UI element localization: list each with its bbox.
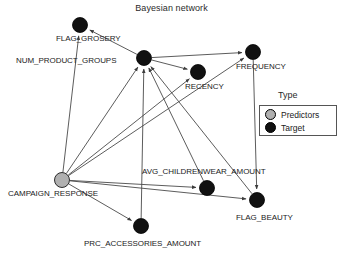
network-node[interactable] [73, 18, 88, 33]
node-label: FLAG_BEAUTY [236, 213, 293, 222]
network-edge [141, 69, 144, 218]
bayesian-network-diagram: Bayesian network FLAG_GROSERYNUM_PRODUCT… [0, 0, 343, 253]
network-node[interactable] [55, 173, 70, 188]
network-edge [152, 53, 242, 58]
node-layer [55, 18, 265, 234]
node-label: FREQUENCY [236, 62, 286, 71]
network-node[interactable] [246, 45, 261, 60]
network-node[interactable] [137, 51, 152, 66]
node-label: FLAG_GROSERY [56, 34, 121, 43]
network-edge [66, 67, 137, 173]
legend-item: Predictors [265, 109, 319, 120]
legend-item: Target [265, 122, 305, 133]
network-edge [152, 60, 188, 69]
legend-item-label: Predictors [281, 110, 319, 120]
network-node[interactable] [200, 181, 215, 196]
network-edge [70, 180, 196, 187]
legend-swatch-icon [265, 122, 276, 133]
node-label: NUM_PRODUCT_GROUPS [16, 56, 116, 65]
network-node[interactable] [191, 65, 206, 80]
legend-swatch-icon [265, 109, 276, 120]
network-edge [69, 58, 244, 175]
network-edge [68, 79, 189, 175]
node-label: RECENCY [185, 82, 224, 91]
node-label: PRC_ACCESSORIES_AMOUNT [84, 239, 201, 248]
node-label: AVG_CHILDRENWEAR_AMOUNT [142, 167, 266, 176]
legend-title: Type [278, 90, 298, 100]
network-node[interactable] [134, 219, 149, 234]
node-label: CAMPAIGN_RESPONSE [8, 189, 98, 198]
network-node[interactable] [250, 193, 265, 208]
legend-item-label: Target [281, 123, 305, 133]
